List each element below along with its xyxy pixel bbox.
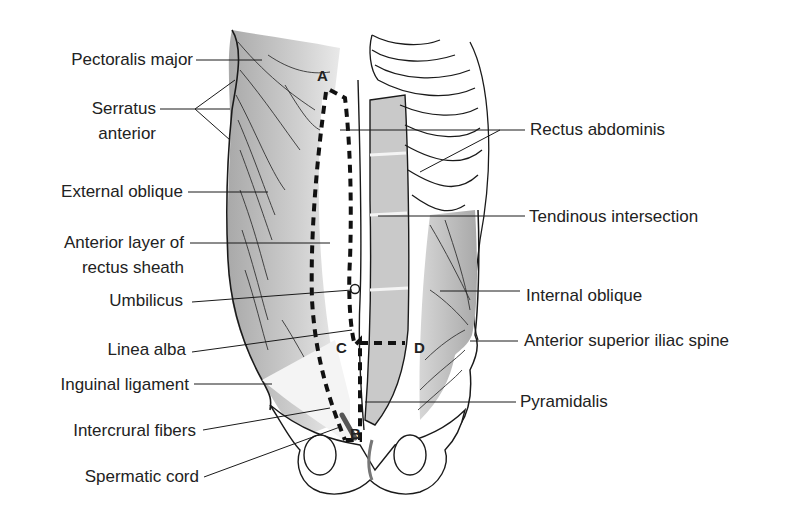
label-umbilicus: Umbilicus [0,291,183,311]
label-external-oblique: External oblique [0,182,183,202]
label-pectoralis-major: Pectoralis major [0,50,193,70]
anatomy-figure: Pectoralis major Serratus anterior Exter… [0,0,799,515]
marker-b: B [350,425,361,442]
marker-d: D [414,339,425,356]
umbilicus-mark [351,285,360,294]
label-pyramidalis: Pyramidalis [520,392,608,412]
label-linea-alba: Linea alba [0,340,186,360]
label-spermatic-cord: Spermatic cord [0,467,199,487]
label-serratus-anterior-line1: Serratus [0,99,156,119]
label-intercrural-fibers: Intercrural fibers [0,421,196,441]
rectus-abdominis [365,95,409,425]
label-anterior-superior-iliac-spine: Anterior superior iliac spine [524,331,729,351]
label-internal-oblique: Internal oblique [526,286,642,306]
label-tendinous-intersection: Tendinous intersection [529,207,698,227]
label-rectus-abdominis: Rectus abdominis [530,120,665,140]
label-serratus-anterior-line2: anterior [0,124,156,144]
label-anterior-layer-line2: rectus sheath [0,258,184,278]
label-anterior-layer-line1: Anterior layer of [0,233,184,253]
label-inguinal-ligament: Inguinal ligament [0,375,189,395]
marker-c: C [336,339,347,356]
marker-a: A [317,67,328,84]
internal-oblique [419,210,476,420]
